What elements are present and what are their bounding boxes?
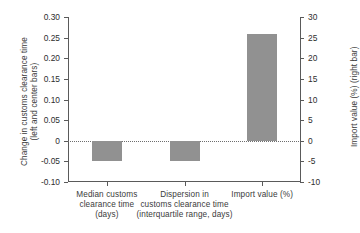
right-axis-tick: [300, 58, 304, 59]
right-axis-tick: [300, 120, 304, 121]
left-axis-tick: [64, 38, 68, 39]
left-axis-tick-label: -0.10: [20, 178, 60, 186]
left-axis-tick-label: 0.15: [20, 75, 60, 83]
left-axis-spine: [68, 17, 69, 182]
left-axis-tick: [64, 79, 68, 80]
left-axis-tick: [64, 161, 68, 162]
left-axis-tick-label: 0.25: [20, 34, 60, 42]
x-axis-tick: [107, 181, 108, 186]
right-axis-tick: [300, 79, 304, 80]
right-axis-tick-label: 15: [308, 75, 348, 83]
right-axis-tick: [300, 100, 304, 101]
right-axis-tick-label: 25: [308, 34, 348, 42]
bar: [92, 141, 122, 162]
left-axis-tick: [64, 17, 68, 18]
right-axis-tick: [300, 17, 304, 18]
right-axis-tick: [300, 141, 304, 142]
right-axis-tick-label: -5: [308, 157, 348, 165]
left-axis-tick-label: 0.05: [20, 116, 60, 124]
left-axis-tick-label: 0.20: [20, 54, 60, 62]
left-axis-tick-label: 0.30: [20, 13, 60, 21]
right-axis-tick-label: 30: [308, 13, 348, 21]
left-axis-tick: [64, 58, 68, 59]
right-axis-tick-label: 5: [308, 116, 348, 124]
x-axis-category-label-line: (interquartile range, days): [115, 210, 255, 220]
left-axis-tick-label: 0.10: [20, 96, 60, 104]
right-axis-tick-label: 0: [308, 137, 348, 145]
right-axis-tick: [300, 182, 304, 183]
x-axis-category-label: Import value (%): [192, 190, 332, 200]
left-axis-tick: [64, 120, 68, 121]
right-axis-tick: [300, 161, 304, 162]
left-axis-tick-label: 0: [20, 137, 60, 145]
right-axis-tick: [300, 38, 304, 39]
left-axis-tick: [64, 141, 68, 142]
left-axis-tick-label: -0.05: [20, 157, 60, 165]
right-axis-title: Import value (%) (right bar): [350, 11, 360, 183]
x-axis-tick: [185, 181, 186, 186]
bar: [247, 34, 277, 141]
bar: [170, 141, 200, 162]
right-axis-tick-label: 10: [308, 96, 348, 104]
x-axis-tick: [262, 181, 263, 186]
left-axis-tick: [64, 100, 68, 101]
left-axis-tick: [64, 182, 68, 183]
plot-area: [68, 17, 301, 182]
x-axis-category-label-line: Import value (%): [192, 190, 332, 200]
right-axis-tick-label: -10: [308, 178, 348, 186]
right-axis-tick-label: 20: [308, 54, 348, 62]
x-axis-category-label-line: customs clearance time: [115, 200, 255, 210]
